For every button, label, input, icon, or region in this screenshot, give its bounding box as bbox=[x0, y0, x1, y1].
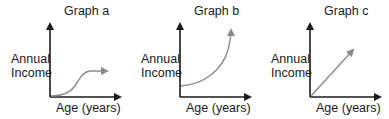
graph-a-plot bbox=[0, 0, 130, 119]
graph-b-plot bbox=[130, 0, 260, 119]
graph-c: Graph c AnnualIncome Age (years) bbox=[260, 0, 389, 119]
graph-a: Graph a AnnualIncome Age (years) bbox=[0, 0, 130, 119]
graph-a-curve bbox=[51, 71, 107, 96]
graph-b-curve bbox=[181, 30, 231, 86]
graph-c-plot bbox=[260, 0, 389, 119]
graph-b: Graph b AnnualIncome Age (years) bbox=[130, 0, 260, 119]
graph-c-curve bbox=[311, 50, 353, 96]
